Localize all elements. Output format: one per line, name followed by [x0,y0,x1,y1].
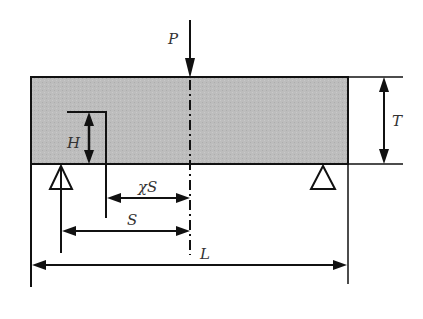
load-arrow: P [167,20,195,78]
load-label: P [167,30,179,48]
thickness-dimension: T [379,77,403,164]
beam-diagram: T P H χS S [0,0,423,319]
right-support-icon [311,166,335,189]
half-span-label: S [127,211,137,229]
half-span-dimension: S [62,211,190,236]
thickness-label: T [392,112,403,130]
notch-offset-label: χS [137,178,157,196]
notch-offset-dimension: χS [107,178,190,203]
notch-height-label: H [66,134,81,152]
length-label: L [199,245,210,263]
